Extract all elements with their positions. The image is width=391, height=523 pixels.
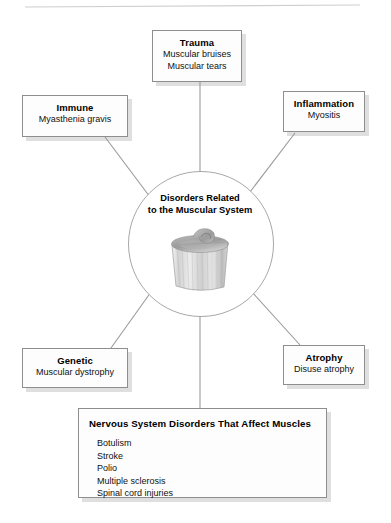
muscle-tissue-illustration bbox=[163, 225, 237, 295]
node-immune-title: Immune bbox=[23, 102, 127, 114]
list-item: Muscular bruises bbox=[153, 49, 241, 61]
connector-inflammation bbox=[250, 133, 295, 192]
node-trauma: Trauma Muscular bruises Muscular tears bbox=[152, 30, 242, 82]
connector-genetic bbox=[111, 292, 151, 348]
connector-immune bbox=[105, 137, 150, 197]
list-item: Multiple sclerosis bbox=[97, 475, 326, 488]
node-atrophy-items: Disuse atrophy bbox=[284, 364, 364, 376]
node-atrophy-title: Atrophy bbox=[284, 352, 364, 364]
node-genetic-title: Genetic bbox=[23, 355, 127, 367]
center-title-line1: Disorders Related bbox=[128, 192, 272, 204]
node-nervous-items: Botulism Stroke Polio Multiple sclerosis… bbox=[97, 437, 326, 500]
list-item: Botulism bbox=[97, 437, 326, 450]
node-inflammation-items: Myositis bbox=[284, 110, 364, 122]
node-genetic-items: Muscular dystrophy bbox=[23, 367, 127, 379]
list-item: Stroke bbox=[97, 450, 326, 463]
node-trauma-items: Muscular bruises Muscular tears bbox=[153, 49, 241, 72]
center-title: Disorders Related to the Muscular System bbox=[128, 192, 272, 216]
list-item: Myositis bbox=[284, 110, 364, 122]
node-trauma-title: Trauma bbox=[153, 37, 241, 49]
connector-atrophy bbox=[252, 292, 300, 345]
node-inflammation-title: Inflammation bbox=[284, 98, 364, 110]
node-immune-items: Myasthenia gravis bbox=[23, 114, 127, 126]
list-item: Muscular tears bbox=[153, 61, 241, 73]
node-nervous-title: Nervous System Disorders That Affect Mus… bbox=[89, 418, 326, 430]
list-item: Muscular dystrophy bbox=[23, 367, 127, 379]
node-genetic: Genetic Muscular dystrophy bbox=[22, 348, 128, 388]
list-item: Spinal cord injuries bbox=[97, 487, 326, 500]
node-nervous-system-disorders: Nervous System Disorders That Affect Mus… bbox=[78, 408, 327, 498]
node-atrophy: Atrophy Disuse atrophy bbox=[283, 345, 365, 385]
top-rule bbox=[25, 5, 360, 7]
center-title-line2: to the Muscular System bbox=[128, 204, 272, 216]
node-immune: Immune Myasthenia gravis bbox=[22, 95, 128, 137]
list-item: Polio bbox=[97, 462, 326, 475]
list-item: Disuse atrophy bbox=[284, 364, 364, 376]
diagram-canvas: Disorders Related to the Muscular System bbox=[0, 0, 391, 523]
list-item: Myasthenia gravis bbox=[23, 114, 127, 126]
node-inflammation: Inflammation Myositis bbox=[283, 91, 365, 132]
